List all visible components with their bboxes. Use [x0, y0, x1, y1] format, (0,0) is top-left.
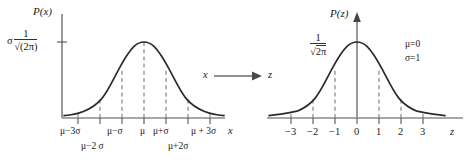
- right-panel-plot: [235, 0, 469, 165]
- right-y-axis-arrowhead-icon: [353, 12, 361, 22]
- left-tick-label-mu: μ: [140, 127, 145, 137]
- left-peak-numerator: 1: [14, 28, 37, 40]
- left-tick-label-mu-plus-sigma: μ+σ: [153, 127, 169, 137]
- left-x-ticks: [78, 118, 210, 124]
- left-tick-label-mu-minus-2sigma: μ−2 σ: [81, 142, 104, 152]
- right-tick-label-3: 3: [420, 127, 425, 138]
- right-peak-denominator-text: 2π: [316, 45, 327, 57]
- right-peak-denominator: √2π: [310, 44, 326, 57]
- annotation-sigma: σ=1: [405, 54, 420, 64]
- left-tick-label-mu-plus-2sigma: μ+2σ: [168, 142, 188, 152]
- right-tick-label-2: 2: [398, 127, 403, 138]
- right-peak-value-label: 1 √2π: [310, 32, 326, 57]
- right-tick-label-0: 0: [354, 127, 359, 138]
- right-tick-label-1: 1: [376, 127, 381, 138]
- left-y-axis-label: P(x): [33, 6, 52, 17]
- transform-from-label: x: [203, 70, 208, 81]
- left-dashed-verticals: [78, 42, 210, 118]
- left-tick-label-mu-minus-3sigma: μ−3σ: [60, 127, 80, 137]
- right-x-ticks: [291, 118, 423, 124]
- left-peak-denominator-text: (2π): [20, 41, 38, 52]
- left-tick-label-mu-plus-3sigma: μ + 3σ: [191, 127, 216, 137]
- left-peak-denominator: √(2π): [14, 40, 37, 52]
- normal-distribution-figure: P(x) σ 1 √(2π) μ−3σ μ−σ μ μ+σ μ + 3σ μ−2…: [0, 0, 469, 165]
- right-tick-label--3: −3: [285, 127, 296, 138]
- left-peak-sigma: σ: [7, 35, 14, 46]
- left-panel-plot: [0, 0, 235, 165]
- right-peak-numerator: 1: [310, 32, 326, 44]
- left-tick-label-mu-minus-sigma: μ−σ: [107, 127, 123, 137]
- annotation-mean: μ=0: [405, 40, 420, 50]
- right-x-axis-label: z: [450, 127, 454, 138]
- left-x-axis-label: x: [228, 126, 233, 137]
- right-y-axis-label: P(z): [330, 8, 348, 19]
- left-peak-value-label: σ 1 √(2π): [7, 28, 37, 52]
- right-tick-label--1: −1: [329, 127, 340, 138]
- right-tick-label--2: −2: [307, 127, 318, 138]
